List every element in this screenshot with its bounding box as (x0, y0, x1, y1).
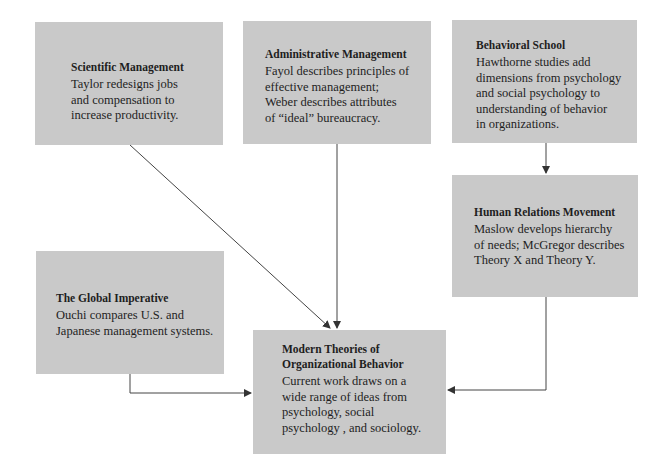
node-title: Administrative Management (265, 47, 431, 62)
node-behavioral-school: Behavioral School Hawthorne studies add … (452, 20, 637, 143)
node-body: Fayol describes principles of effective … (265, 64, 431, 126)
node-modern-theories: Modern Theories of Organizational Behavi… (253, 330, 446, 454)
node-body: Hawthorne studies add dimensions from ps… (476, 55, 637, 133)
arrow-global-to-modern (130, 374, 251, 393)
node-global-imperative: The Global Imperative Ouchi compares U.S… (36, 251, 224, 374)
node-administrative-management: Administrative Management Fayol describe… (243, 21, 431, 144)
node-body: Maslow develops hierarchy of needs; McGr… (474, 222, 638, 269)
node-title: The Global Imperative (56, 291, 224, 306)
node-body: Ouchi compares U.S. and Japanese managem… (56, 308, 224, 339)
arrow-human-relations-to-modern (448, 297, 546, 390)
node-title: Modern Theories of Organizational Behavi… (282, 342, 446, 372)
node-title: Scientific Management (71, 60, 223, 75)
node-scientific-management: Scientific Management Taylor redesigns j… (35, 22, 223, 145)
node-title: Human Relations Movement (474, 205, 638, 220)
node-human-relations-movement: Human Relations Movement Maslow develops… (452, 175, 638, 297)
node-body: Current work draws on a wide range of id… (282, 374, 446, 436)
node-body: Taylor redesigns jobs and compensation t… (71, 77, 223, 124)
node-title: Behavioral School (476, 38, 637, 53)
